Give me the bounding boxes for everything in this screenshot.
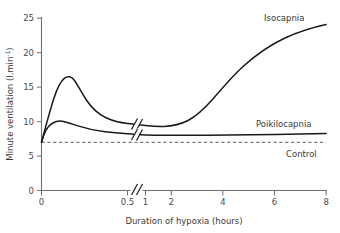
y-tick-label-5: 5	[29, 151, 34, 161]
minute-ventilation-line-chart: 25 20 15 10 5 0 0 0.5 1 2 4 6 8	[0, 0, 340, 233]
y-axis-title-tail: )	[5, 47, 15, 50]
series-label-poikilocapnia: Poikilocapnia	[256, 119, 311, 129]
y-axis-title: Minute ventilation (l.min-1)	[4, 47, 15, 160]
y-tick-label-0: 0	[29, 186, 34, 196]
y-tick-label-10: 10	[23, 117, 34, 127]
series-label-isocapnia: Isocapnia	[264, 13, 304, 23]
x-tick-label-6: 6	[272, 197, 277, 207]
y-tick-label-20: 20	[23, 48, 34, 58]
y-tick-label-15: 15	[23, 82, 34, 92]
y-axis-tick-labels: 25 20 15 10 5 0	[23, 13, 34, 195]
x-axis-tick-labels: 0 0.5 1 2 4 6 8	[39, 197, 329, 207]
y-tick-label-25: 25	[23, 13, 34, 23]
x-axis-title: Duration of hypoxia (hours)	[125, 216, 242, 226]
x-axis-ticks	[42, 191, 327, 196]
series-label-control: Control	[286, 149, 317, 159]
chart-container: 25 20 15 10 5 0 0 0.5 1 2 4 6 8	[0, 0, 340, 233]
x-tick-label-2: 2	[169, 197, 174, 207]
y-axis-title-main: Minute ventilation (l.min	[5, 57, 15, 161]
x-axis-break-mark	[131, 184, 143, 195]
y-axis-title-group: Minute ventilation (l.min-1)	[4, 47, 15, 160]
x-tick-label-4: 4	[220, 197, 225, 207]
x-tick-label-0: 0	[39, 197, 44, 207]
y-axis-ticks	[37, 18, 42, 190]
x-tick-label-1: 1	[143, 197, 148, 207]
x-tick-label-0-5: 0.5	[121, 197, 135, 207]
x-tick-label-8: 8	[323, 197, 328, 207]
